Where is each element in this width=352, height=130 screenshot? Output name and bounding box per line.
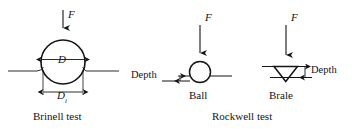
- rockwell-ball-depth-label: Depth: [131, 70, 157, 81]
- rockwell-brale-caption: Brale: [269, 90, 293, 101]
- brinell-caption: Brinell test: [33, 111, 82, 122]
- rockwell-ball-indenter: [190, 62, 211, 83]
- hardness-test-diagram: F D Di Brinell test F Depth Ball F Depth…: [0, 0, 352, 130]
- rockwell-ball-force-label: F: [205, 12, 212, 23]
- brinell-indent-diameter-subscript: i: [65, 97, 67, 105]
- rockwell-brale-cone-indenter: [274, 67, 298, 82]
- brinell-indent-diameter-letter: D: [57, 89, 65, 101]
- brinell-force-label: F: [68, 9, 75, 20]
- rockwell-group-caption: Rockwell test: [212, 111, 272, 122]
- rockwell-ball-specimen-surface: [162, 76, 232, 81]
- brinell-diameter-label: D: [58, 54, 66, 65]
- rockwell-ball-caption: Ball: [189, 90, 207, 101]
- rockwell-brale-depth-label: Depth: [311, 65, 337, 76]
- brinell-indent-diameter-label: Di: [57, 86, 67, 105]
- rockwell-brale-specimen-surface: [262, 67, 312, 78]
- rockwell-brale-force-label: F: [291, 12, 298, 23]
- brinell-specimen-surface: [8, 68, 119, 72]
